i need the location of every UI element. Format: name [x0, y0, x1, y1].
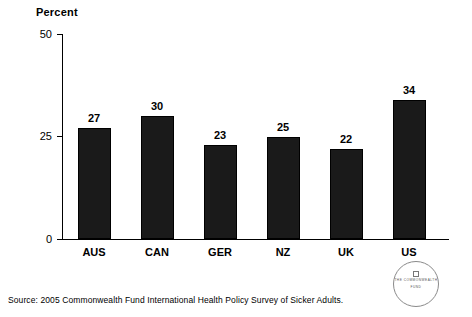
bar-value-ger: 23 [190, 129, 250, 141]
bar-can [141, 116, 174, 239]
logo-text-line1: THE COMMONWEALTH [393, 278, 439, 282]
bar-label-nz: NZ [253, 246, 313, 258]
y-tick-25 [57, 136, 62, 137]
y-axis-title: Percent [36, 6, 78, 18]
bar-value-nz: 25 [253, 121, 313, 133]
y-axis-line [62, 34, 63, 240]
bar-label-us: US [379, 246, 439, 258]
bar-label-can: CAN [127, 246, 187, 258]
source-note: Source: 2005 Commonwealth Fund Internati… [8, 295, 343, 305]
commonwealth-fund-logo: THE COMMONWEALTH FUND [393, 261, 441, 309]
bar-value-can: 30 [127, 100, 187, 112]
bar-label-uk: UK [316, 246, 376, 258]
bar-value-aus: 27 [64, 112, 124, 124]
y-tick-label-25: 25 [22, 130, 52, 142]
logo-text-line2: FUND [393, 285, 439, 289]
logo-mark-icon [413, 271, 419, 277]
bar-aus [78, 128, 111, 239]
logo-circle [393, 261, 439, 307]
bar-chart: Percent 50 25 0 27 AUS 30 CAN 23 GER 25 … [0, 0, 472, 317]
bar-ger [204, 145, 237, 239]
bar-label-aus: AUS [64, 246, 124, 258]
y-tick-label-0: 0 [22, 233, 52, 245]
bar-value-uk: 22 [316, 133, 376, 145]
y-tick-50 [57, 34, 62, 35]
bar-nz [267, 137, 300, 239]
x-axis-line [62, 239, 449, 240]
bar-uk [330, 149, 363, 239]
bar-us [393, 100, 426, 239]
y-tick-label-50: 50 [22, 28, 52, 40]
y-tick-0 [57, 239, 62, 240]
bar-label-ger: GER [190, 246, 250, 258]
bar-value-us: 34 [379, 84, 439, 96]
